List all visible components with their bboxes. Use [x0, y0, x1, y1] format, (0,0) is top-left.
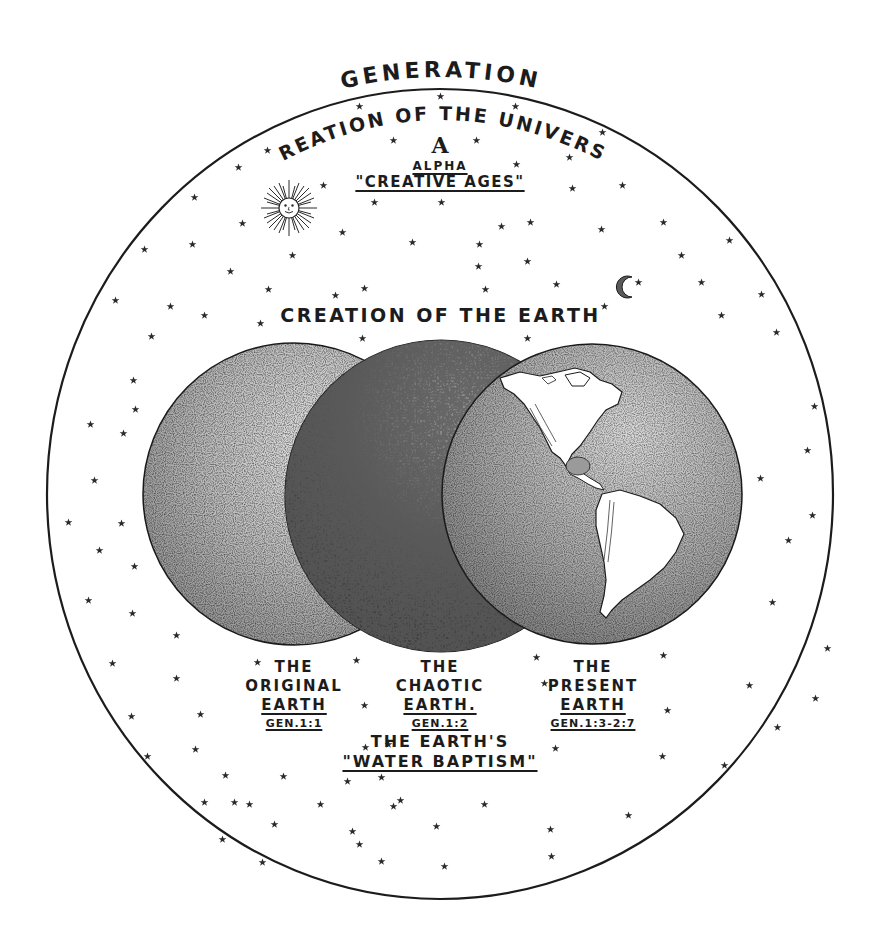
- alpha-word: ALPHA: [340, 160, 540, 172]
- caption-line: THE: [234, 660, 354, 675]
- caption-present-earth: THE PRESENT EARTH GEN.1:3-2:7: [528, 660, 658, 729]
- title-generation-text: GENERATION: [338, 57, 544, 94]
- scripture-reference: GEN.1:3-2:7: [528, 718, 658, 729]
- caption-line: EARTH.: [380, 698, 500, 713]
- caption-line: EARTH: [528, 698, 658, 713]
- caption-chaotic-earth: THE CHAOTIC EARTH. GEN.1:2: [380, 660, 500, 729]
- baptism-line: "WATER BAPTISM": [340, 754, 540, 770]
- creative-ages-label: "CREATIVE AGES": [340, 175, 540, 190]
- scripture-reference: GEN.1:2: [380, 718, 500, 729]
- generation-diagram: GENERATION CREATION OF THE UNIVERSE A AL…: [0, 0, 881, 942]
- caption-line: THE: [380, 660, 500, 675]
- scripture-reference: GEN.1:1: [234, 718, 354, 729]
- caption-line: PRESENT: [528, 679, 658, 694]
- caption-line: THE: [528, 660, 658, 675]
- caption-water-baptism: THE EARTH'S "WATER BAPTISM": [340, 734, 540, 770]
- caption-line: EARTH: [234, 698, 354, 713]
- creation-of-earth-heading: CREATION OF THE EARTH: [0, 306, 881, 325]
- alpha-symbol: A: [340, 134, 540, 156]
- caption-line: CHAOTIC: [380, 679, 500, 694]
- baptism-line: THE EARTH'S: [340, 734, 540, 750]
- alpha-block: A ALPHA "CREATIVE AGES": [340, 134, 540, 190]
- title-generation: GENERATION: [338, 57, 544, 94]
- caption-line: ORIGINAL: [234, 679, 354, 694]
- caption-original-earth: THE ORIGINAL EARTH GEN.1:1: [234, 660, 354, 729]
